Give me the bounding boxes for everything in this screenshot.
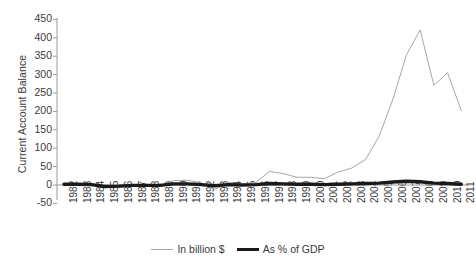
y-axis-tick-marks — [53, 19, 57, 203]
legend-swatch-line-icon — [151, 249, 173, 250]
series-line-in-billion — [64, 30, 461, 189]
legend-swatch-thick-line-icon — [237, 248, 259, 251]
legend-label-pct-gdp: As % of GDP — [263, 243, 325, 255]
data-series-layer — [64, 30, 461, 189]
legend-item-pct-gdp: As % of GDP — [237, 243, 325, 255]
current-account-balance-chart: Current Account Balance 4504003503002502… — [0, 0, 476, 266]
chart-legend: In billion $ As % of GDP — [0, 243, 476, 255]
axis-lines — [57, 18, 470, 200]
plot-area — [0, 0, 476, 266]
legend-label-in-billion: In billion $ — [177, 243, 224, 255]
legend-item-in-billion: In billion $ — [151, 243, 224, 255]
series-line-pct-gdp — [64, 181, 461, 186]
